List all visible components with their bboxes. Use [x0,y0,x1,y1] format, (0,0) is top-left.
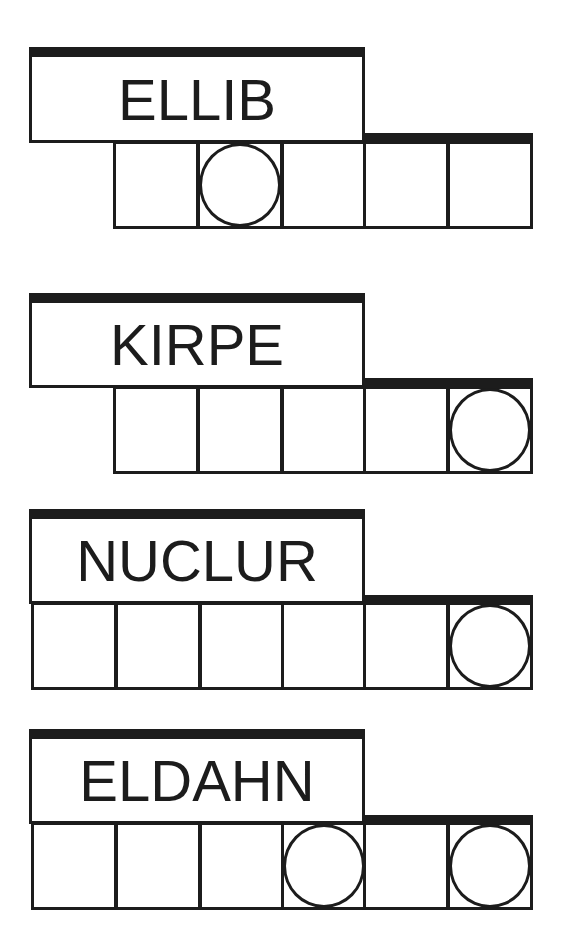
answer-cell[interactable] [31,822,117,910]
answer-cell[interactable] [197,386,283,474]
answer-cell-circled[interactable] [447,602,533,690]
cropped-header-text [0,0,562,4]
circle-marker-icon [449,604,531,688]
answer-cell[interactable] [363,141,449,229]
scrambled-word-box: ELDAHN [29,729,365,824]
scrambled-word: NUCLUR [76,532,318,590]
circle-marker-icon [199,143,281,227]
scrambled-word: ELDAHN [79,752,314,810]
answer-cell-circled[interactable] [447,386,533,474]
scrambled-word-box: NUCLUR [29,509,365,604]
answer-cell[interactable] [113,141,199,229]
circle-marker-icon [449,824,531,908]
answer-cell[interactable] [199,822,285,910]
scrambled-word-box: ELLIB [29,47,365,143]
answer-cell[interactable] [31,602,117,690]
circle-marker-icon [283,824,365,908]
answer-cell-circled[interactable] [197,141,283,229]
answer-cell[interactable] [447,141,533,229]
scrambled-word-box: KIRPE [29,293,365,388]
scrambled-word: ELLIB [118,71,276,129]
answer-cell[interactable] [115,822,201,910]
answer-cell[interactable] [199,602,285,690]
answer-cell[interactable] [363,602,449,690]
answer-cell[interactable] [363,822,449,910]
answer-cell[interactable] [363,386,449,474]
answer-cell[interactable] [113,386,199,474]
answer-cell[interactable] [115,602,201,690]
answer-cell[interactable] [281,141,367,229]
answer-cell[interactable] [281,386,367,474]
circle-marker-icon [449,388,531,472]
answer-cell-circled[interactable] [281,822,367,910]
scrambled-word: KIRPE [110,316,284,374]
answer-cell[interactable] [281,602,367,690]
answer-cell-circled[interactable] [447,822,533,910]
